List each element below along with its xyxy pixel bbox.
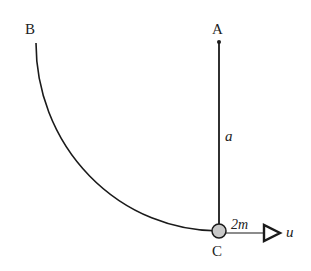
particle-c	[212, 224, 226, 238]
label-velocity: u	[286, 224, 294, 240]
label-c-point: C	[212, 243, 222, 259]
diagram-canvas: A B C a 2m u	[0, 0, 311, 271]
label-rod-length: a	[225, 128, 233, 144]
label-mass: 2m	[231, 217, 248, 232]
pivot-point-a	[217, 40, 221, 44]
label-a-point: A	[212, 21, 223, 37]
label-b-point: B	[25, 21, 35, 37]
arc-path-bc	[36, 43, 219, 231]
velocity-arrow-icon	[264, 225, 280, 241]
